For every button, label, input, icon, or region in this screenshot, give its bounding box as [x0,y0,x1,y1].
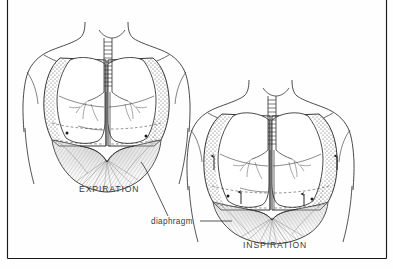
label-diaphragm: diaphragm [151,217,193,226]
label-inspiration: INSPIRATION [243,240,307,250]
panel-inspiration [187,80,354,244]
diaphragm-right [213,202,328,244]
illustration-page: EXPIRATION INSPIRATION diaphragm [0,0,393,269]
panel-expiration [23,22,190,192]
thorax-breathing-diagram [0,0,393,269]
lungs-right-panel [218,113,323,208]
label-expiration: EXPIRATION [79,184,139,194]
lungs-left-panel [57,57,156,143]
